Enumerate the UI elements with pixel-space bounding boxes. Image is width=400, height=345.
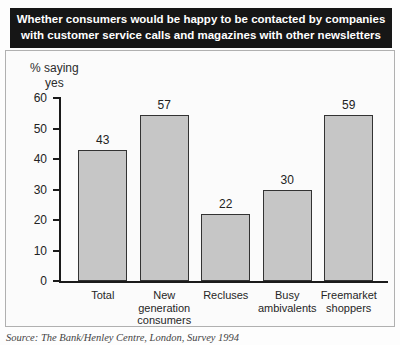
bar-recluses bbox=[201, 214, 250, 281]
bar-slot: 57 bbox=[134, 98, 196, 281]
bar-total bbox=[78, 150, 127, 281]
chart-panel: % saying yes 010203040506043Total57New g… bbox=[5, 50, 395, 327]
x-axis-baseline bbox=[59, 281, 388, 283]
y-axis-tick-label: 20 bbox=[17, 213, 47, 227]
bar-slot: 43 bbox=[72, 98, 134, 281]
bar-value-label: 43 bbox=[96, 133, 109, 147]
bar-value-label: 30 bbox=[281, 173, 294, 187]
bar-slot: 30 bbox=[257, 98, 319, 281]
bar-slot: 59 bbox=[318, 98, 380, 281]
bar-busy-ambivalents bbox=[263, 190, 312, 282]
y-axis-tick bbox=[53, 219, 59, 221]
source-note: Source: The Bank/Henley Centre, London, … bbox=[6, 332, 239, 343]
y-axis-tick-label: 40 bbox=[17, 152, 47, 166]
x-axis-category-label: Freemarket shoppers bbox=[318, 289, 380, 314]
y-axis-tick-label: 60 bbox=[17, 91, 47, 105]
y-axis-tick bbox=[53, 280, 59, 282]
y-axis-tick-label: 50 bbox=[17, 122, 47, 136]
figure-container: Whether consumers would be happy to be c… bbox=[0, 0, 400, 345]
x-axis-category-label: Busy ambivalents bbox=[257, 289, 319, 314]
y-axis-tick bbox=[53, 128, 59, 130]
y-axis-tick bbox=[53, 97, 59, 99]
y-axis-tick-label: 30 bbox=[17, 183, 47, 197]
y-axis-tick-label: 10 bbox=[17, 244, 47, 258]
bar-new-generation-consumers bbox=[140, 115, 189, 281]
x-axis-category-label: Recluses bbox=[195, 289, 257, 302]
x-axis-category-label: Total bbox=[72, 289, 134, 302]
x-axis-category-label: New generation consumers bbox=[134, 289, 196, 327]
plot-area: 010203040506043Total57New generation con… bbox=[61, 98, 391, 281]
bar-value-label: 57 bbox=[158, 98, 171, 112]
y-axis-tick bbox=[53, 189, 59, 191]
y-axis-tick bbox=[53, 158, 59, 160]
y-axis-title: % saying yes bbox=[30, 61, 79, 91]
bar-value-label: 59 bbox=[342, 98, 355, 112]
y-axis-line bbox=[59, 97, 61, 283]
bar-value-label: 22 bbox=[219, 197, 232, 211]
y-axis-tick-label: 0 bbox=[17, 274, 47, 288]
bar-freemarket-shoppers bbox=[324, 115, 373, 281]
bar-slot: 22 bbox=[195, 98, 257, 281]
chart-title: Whether consumers would be happy to be c… bbox=[10, 8, 392, 48]
y-axis-tick bbox=[53, 250, 59, 252]
